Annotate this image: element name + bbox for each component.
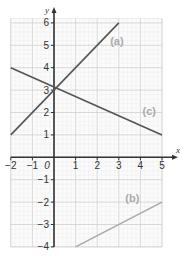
y-tick-label: 4 xyxy=(43,62,49,73)
series-label: (b) xyxy=(125,192,139,204)
y-tick-label: 5 xyxy=(43,40,49,51)
y-tick-label: 1 xyxy=(43,129,49,140)
line-chart: xy−2−112345654321−1−2−3−40(a)(b)(c) xyxy=(0,0,184,260)
x-tick-label: 4 xyxy=(138,160,144,171)
y-tick-label: −3 xyxy=(38,219,50,230)
y-tick-label: 6 xyxy=(43,17,49,28)
series-label: (c) xyxy=(143,105,157,117)
series-label: (a) xyxy=(110,35,124,47)
x-tick-label: 5 xyxy=(159,160,165,171)
y-tick-label: 2 xyxy=(43,107,49,118)
x-axis-arrow-icon xyxy=(172,155,178,160)
origin-label: 0 xyxy=(44,160,50,171)
plot-area xyxy=(11,18,162,246)
y-tick-label: −1 xyxy=(38,174,50,185)
y-tick-label: 3 xyxy=(43,85,49,96)
x-axis-label: x xyxy=(175,145,180,155)
x-tick-label: 2 xyxy=(94,160,100,171)
y-axis-label: y xyxy=(44,5,49,15)
y-axis-arrow-icon xyxy=(52,7,57,13)
x-tick-label: −1 xyxy=(27,160,39,171)
x-tick-label: 1 xyxy=(73,160,79,171)
y-tick-label: −4 xyxy=(38,241,50,252)
x-tick-label: −2 xyxy=(5,160,17,171)
x-tick-label: 3 xyxy=(116,160,122,171)
y-tick-label: −2 xyxy=(38,197,50,208)
